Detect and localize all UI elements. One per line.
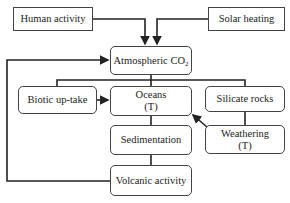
node-atmospheric-co2: Atmospheric CO2 xyxy=(110,46,192,75)
node-label: Oceans xyxy=(136,89,167,101)
node-label: Silicate rocks xyxy=(217,93,274,105)
edge-volcanic-to-co2 xyxy=(7,60,110,181)
node-label: Weathering xyxy=(221,128,269,140)
node-sublabel: (T) xyxy=(238,140,251,152)
node-label: Solar heating xyxy=(219,13,275,25)
node-solar-heating: Solar heating xyxy=(208,7,285,31)
edge-solar-to-co2 xyxy=(157,19,208,44)
node-human-activity: Human activity xyxy=(13,7,93,31)
node-label: Human activity xyxy=(20,13,85,25)
node-weathering: Weathering (T) xyxy=(205,125,285,154)
edge-human-to-co2 xyxy=(93,19,145,44)
node-sedimentation: Sedimentation xyxy=(110,125,192,155)
edge-weathering-to-oceans xyxy=(193,115,207,127)
node-silicate-rocks: Silicate rocks xyxy=(205,86,285,112)
node-oceans: Oceans (T) xyxy=(110,86,192,116)
node-biotic-uptake: Biotic up-take xyxy=(18,86,97,114)
node-label: Atmospheric CO2 xyxy=(114,55,189,67)
node-sublabel: (T) xyxy=(144,101,157,113)
node-label: Sedimentation xyxy=(121,134,182,146)
node-label: Volcanic activity xyxy=(116,175,187,187)
node-volcanic-activity: Volcanic activity xyxy=(110,165,192,196)
node-label: Biotic up-take xyxy=(28,94,88,106)
